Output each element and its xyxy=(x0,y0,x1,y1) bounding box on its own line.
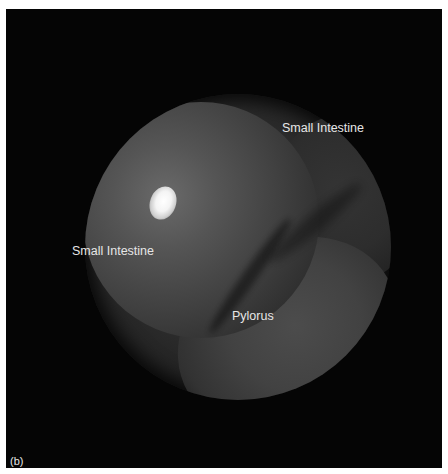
annotation-small-intestine-upper: Small Intestine xyxy=(282,122,364,135)
endoscopic-image-frame: Small Intestine Small Intestine Pylorus … xyxy=(6,9,442,468)
panel-label: (b) xyxy=(10,456,23,467)
annotation-pylorus: Pylorus xyxy=(232,310,274,323)
annotation-small-intestine-left: Small Intestine xyxy=(72,245,154,258)
small-intestine-loop-left xyxy=(85,102,319,338)
